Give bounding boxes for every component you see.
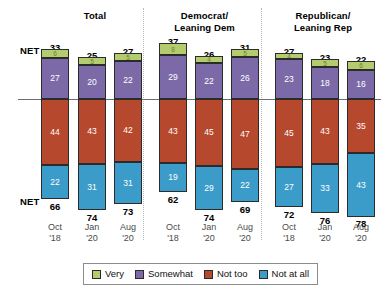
segment-somewhat: 16	[347, 70, 375, 99]
net-bottom-value: 62	[157, 194, 189, 205]
segment-not-too: 47	[231, 99, 259, 169]
segment-not-too: 43	[159, 99, 187, 163]
segment-somewhat: 26	[231, 57, 259, 99]
xtick-total-jan20: Jan '20	[75, 222, 109, 244]
net-bottom-value: 66	[39, 201, 71, 212]
legend-item-somewhat: Somewhat	[135, 269, 193, 279]
segment-very: 5	[231, 49, 259, 57]
legend-item-very: Very	[92, 269, 124, 279]
segment-not-at-all: 31	[78, 164, 106, 210]
segment-not-at-all: 27	[275, 167, 303, 207]
net-label-bottom: NET	[20, 196, 40, 207]
legend-item-not-at-all: Not at all	[259, 269, 310, 279]
net-label-top: NET	[20, 45, 40, 56]
xtick-republican-oct18: Oct '18	[272, 222, 306, 244]
bar-republican-jan20: 5 18 43 33	[311, 59, 339, 213]
segment-not-at-all: 33	[311, 164, 339, 213]
xtick-democrat-aug20: Aug '20	[228, 222, 262, 244]
xtick-republican-jan20: Jan '20	[308, 222, 342, 244]
segment-very: 8	[159, 43, 187, 55]
bar-democrat-jan20: 4 22 45 29	[195, 56, 223, 210]
segment-somewhat: 27	[41, 58, 69, 99]
legend-label-somewhat: Somewhat	[148, 269, 193, 279]
bar-republican-aug20: 6 16 35 43	[347, 61, 375, 217]
net-bottom-value: 69	[229, 204, 261, 215]
segment-very: 5	[78, 57, 106, 65]
segment-somewhat: 18	[311, 67, 339, 99]
net-bottom-value: 73	[112, 206, 144, 217]
legend-label-not-at-all: Not at all	[272, 269, 310, 279]
segment-not-too: 35	[347, 99, 375, 153]
segment-not-at-all: 19	[159, 163, 187, 192]
segment-very: 5	[114, 53, 142, 61]
segment-not-at-all: 43	[347, 153, 375, 217]
segment-not-too: 44	[41, 99, 69, 165]
legend-swatch-somewhat	[135, 270, 144, 279]
xtick-total-aug20: Aug '20	[111, 222, 145, 244]
segment-not-too: 45	[275, 99, 303, 167]
segment-somewhat: 23	[275, 59, 303, 99]
bar-democrat-oct18: 8 29 43 19	[159, 43, 187, 192]
segment-very: 5	[311, 59, 339, 67]
segment-not-at-all: 29	[195, 166, 223, 210]
xtick-total-oct18: Oct '18	[38, 222, 72, 244]
net-bottom-value: 72	[273, 209, 305, 220]
segment-not-at-all: 22	[41, 165, 69, 199]
segment-somewhat: 20	[78, 65, 106, 99]
segment-not-too: 43	[78, 99, 106, 164]
bar-total-oct18: 6 27 44 22	[41, 49, 69, 199]
segment-very: 6	[41, 49, 69, 58]
segment-somewhat: 22	[195, 63, 223, 99]
segment-not-too: 42	[114, 99, 142, 162]
bar-total-aug20: 5 22 42 31	[114, 53, 142, 204]
segment-not-at-all: 22	[231, 169, 259, 202]
segment-not-too: 45	[195, 99, 223, 166]
legend-swatch-very	[92, 270, 101, 279]
bar-democrat-aug20: 5 26 47 22	[231, 49, 259, 202]
group-header-republican: Republican/ Leaning Rep	[268, 10, 378, 33]
xtick-republican-aug20: Aug '20	[344, 222, 378, 244]
xtick-democrat-oct18: Oct '18	[156, 222, 190, 244]
segment-not-too: 43	[311, 99, 339, 164]
bar-republican-oct18: 4 23 45 27	[275, 53, 303, 207]
xtick-democrat-jan20: Jan '20	[192, 222, 226, 244]
segment-very: 6	[347, 61, 375, 70]
legend-swatch-not-too	[204, 270, 213, 279]
chart-legend: Very Somewhat Not too Not at all	[83, 263, 318, 285]
segment-very: 4	[195, 56, 223, 63]
segment-not-at-all: 31	[114, 162, 142, 204]
legend-label-not-too: Not too	[217, 269, 248, 279]
legend-item-not-too: Not too	[204, 269, 248, 279]
stacked-diverging-bar-chart: Total Democrat/ Leaning Dem Republican/ …	[0, 0, 387, 292]
bar-total-jan20: 5 20 43 31	[78, 57, 106, 210]
group-header-total: Total	[45, 10, 145, 22]
group-header-democrat: Democrat/ Leaning Dem	[152, 10, 257, 33]
legend-label-very: Very	[105, 269, 124, 279]
legend-swatch-not-at-all	[259, 270, 268, 279]
group-separator-2	[261, 8, 262, 240]
segment-somewhat: 22	[114, 61, 142, 99]
segment-somewhat: 29	[159, 55, 187, 99]
